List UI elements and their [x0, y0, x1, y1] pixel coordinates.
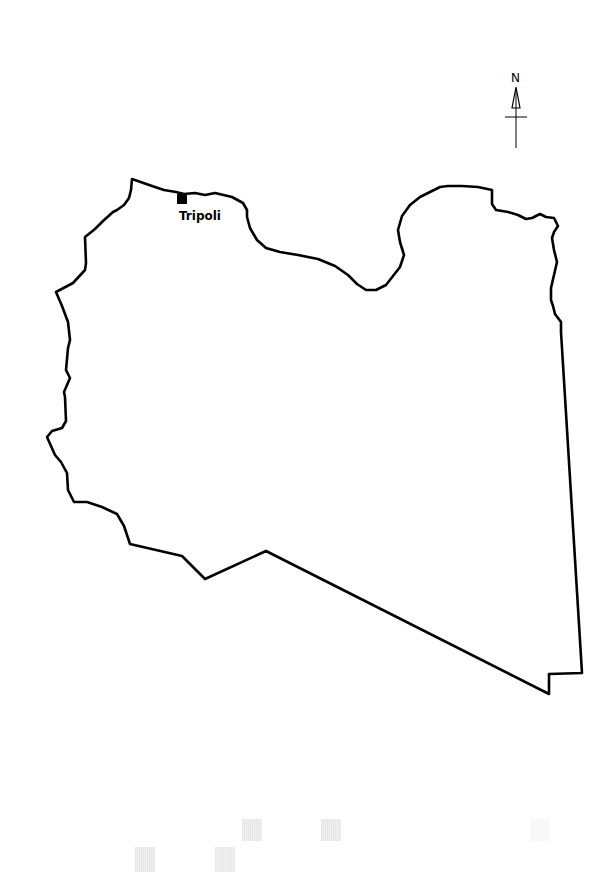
scan-artifact [215, 847, 235, 872]
svg-text:N: N [511, 71, 520, 85]
country-outline [47, 179, 582, 694]
scan-artifact [135, 847, 155, 872]
north-arrow-icon: N [505, 71, 527, 148]
scan-artifact [321, 819, 341, 841]
scan-artifact [242, 819, 262, 841]
tripoli-marker [177, 194, 187, 204]
tripoli-label: Tripoli [179, 209, 221, 223]
scan-artifact [530, 819, 550, 841]
map-canvas: Tripoli N [0, 0, 613, 872]
